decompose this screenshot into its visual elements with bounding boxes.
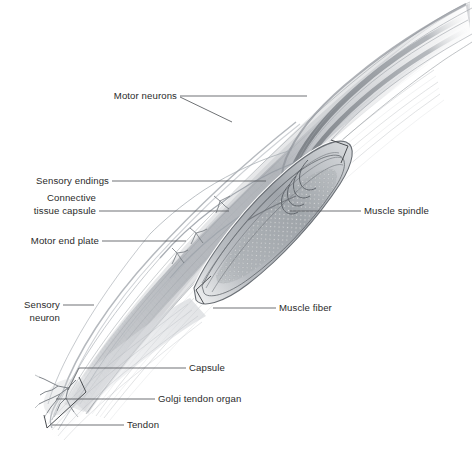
label-connective-tissue-capsule-line1: Connective <box>47 192 96 203</box>
label-motor-neurons: Motor neurons <box>114 90 177 101</box>
leader-motor-neurons-b <box>180 97 232 122</box>
label-sensory-neuron-line2: neuron <box>30 312 60 323</box>
figure-canvas: Motor neurons Sensory endings Connective… <box>0 0 472 458</box>
label-muscle-fiber: Muscle fiber <box>279 302 333 313</box>
label-muscle-spindle: Muscle spindle <box>364 205 429 216</box>
label-tendon: Tendon <box>127 419 159 430</box>
label-capsule: Capsule <box>189 362 225 373</box>
label-motor-end-plate: Motor end plate <box>31 235 99 246</box>
label-sensory-neuron-line1: Sensory <box>24 299 60 310</box>
muscle-spindle-diagram: Motor neurons Sensory endings Connective… <box>0 0 472 458</box>
label-golgi-tendon-organ: Golgi tendon organ <box>158 393 241 404</box>
label-sensory-endings: Sensory endings <box>36 175 109 186</box>
label-connective-tissue-capsule-line2: tissue capsule <box>34 205 96 216</box>
